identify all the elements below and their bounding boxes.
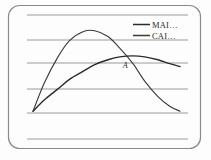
series-line-mai <box>33 56 180 111</box>
legend-label-mai: MAI… <box>152 20 178 30</box>
annotation-label-a: A <box>122 61 128 70</box>
series-group <box>33 30 180 111</box>
chart-figure: A MAI… CAI… <box>0 0 211 160</box>
series-line-cai <box>33 30 180 111</box>
legend-label-cai: CAI… <box>152 31 176 41</box>
chart-legend: MAI… CAI… <box>133 20 178 41</box>
chart-canvas: A MAI… CAI… <box>0 0 211 160</box>
